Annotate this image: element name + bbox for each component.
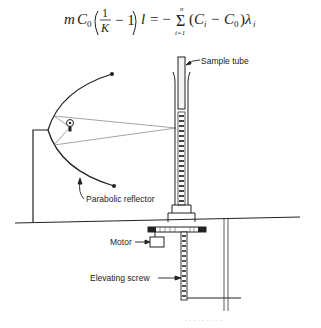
reflector-bracket — [33, 130, 48, 222]
table-line — [15, 217, 300, 223]
label-parabolic-reflector: Parabolic reflector — [86, 194, 155, 204]
reflector-top-end — [110, 72, 114, 76]
parabolic-reflector — [48, 74, 114, 186]
label-elevating-screw: Elevating screw — [90, 273, 150, 283]
gear-disk — [148, 227, 206, 232]
sample-tube — [178, 57, 185, 109]
motor-box — [150, 237, 164, 247]
apparatus-diagram: Sample tube Parabolic reflector Motor El… — [0, 0, 321, 328]
label-sample-tube: Sample tube — [201, 56, 249, 66]
caption-fragment: · · · · · · · · · — [185, 317, 222, 324]
tube-screw-rungs — [179, 115, 184, 202]
reflector-bottom-end — [112, 184, 116, 188]
label-motor: Motor — [110, 237, 132, 247]
